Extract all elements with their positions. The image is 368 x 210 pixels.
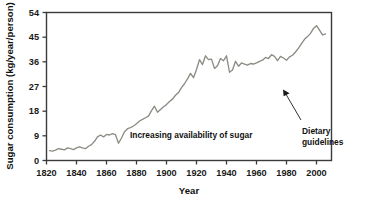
y-tick-label: 36 [29,57,39,67]
annotation-dietary-line1: Dietary [302,126,331,136]
y-tick-label: 45 [29,32,39,42]
x-tick-label: 1940 [216,168,236,178]
y-tick-label: 27 [29,82,39,92]
x-tick-label: 2000 [306,168,326,178]
x-tick-label: 1960 [246,168,266,178]
annotation-leader-line [286,94,302,121]
x-tick-label: 1820 [36,168,56,178]
y-tick-label: 0 [34,156,39,166]
x-tick-label: 1920 [186,168,206,178]
y-tick-label: 18 [29,106,39,116]
x-tick-labels: 1820 1840 1860 1880 1900 1920 1940 1960 … [36,168,326,178]
x-tick-label: 1840 [66,168,86,178]
x-axis-title: Year [179,185,200,196]
annotation-increasing-availability: Increasing availability of sugar [130,130,253,140]
x-tick-label: 1860 [96,168,116,178]
sugar-consumption-line-chart: 0 9 18 27 36 45 54 1820 1840 1860 1880 [0,0,368,210]
x-tick-label: 1880 [126,168,146,178]
y-axis-title: Sugar consumption (kg/year/person) [4,2,15,169]
y-tick-label: 54 [29,8,40,18]
annotation-dietary-line2: guidelines [302,137,344,147]
x-tick-label: 1980 [276,168,296,178]
chart-figure: 0 9 18 27 36 45 54 1820 1840 1860 1880 [0,0,368,210]
x-tick-label: 1900 [156,168,176,178]
y-tick-labels: 0 9 18 27 36 45 54 [29,8,40,166]
y-tick-label: 9 [34,131,39,141]
annotation-dietary-guidelines-group: Dietary guidelines [283,90,344,148]
